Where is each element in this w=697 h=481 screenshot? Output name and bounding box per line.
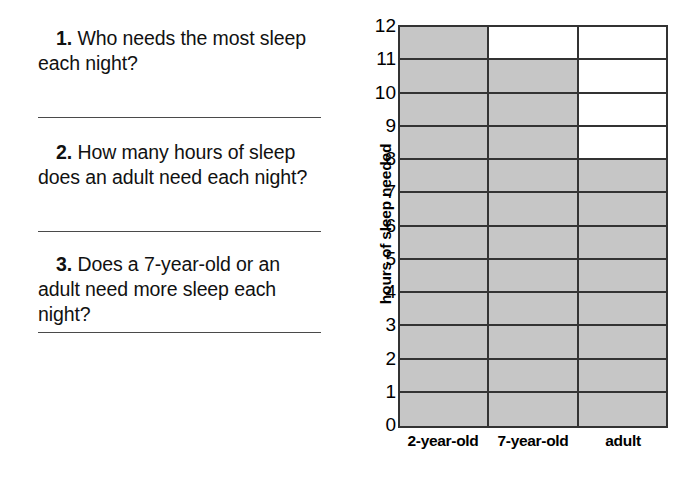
chart-bar-cell [579,127,666,158]
chart-plot-area [398,25,668,428]
chart-bar-cell [579,27,666,58]
question-item: 3. Does a 7-year-old or an adult need mo… [38,252,322,327]
chart-bar-cell [400,193,489,224]
questions-panel: 1. Who needs the most sleep each night? … [0,0,350,481]
question-body: Who needs the most sleep each night? [38,27,306,74]
x-axis-tick-label: adult [578,432,668,450]
y-axis-tick-label: 10 [368,83,396,102]
chart-bar-cell [489,326,578,357]
y-axis-tick-label: 5 [368,249,396,268]
y-axis-tick-label: 11 [368,49,396,68]
chart-grid-row [400,160,666,193]
question-number: 1. [56,27,72,49]
chart-bar-cell [400,160,489,191]
chart-bar-cell [489,60,578,91]
y-axis-tick-label: 1 [368,382,396,401]
chart-grid-row [400,193,666,226]
chart-bar-cell [579,60,666,91]
question-number: 2. [56,141,72,163]
question-text: 3. Does a 7-year-old or an adult need mo… [38,252,322,327]
chart-bar-cell [400,60,489,91]
question-text: 2. How many hours of sleep does an adult… [38,140,322,190]
y-axis-tick-label: 2 [368,349,396,368]
chart-bar-cell [489,293,578,324]
question-body: How many hours of sleep does an adult ne… [38,141,307,188]
chart-bar-cell [400,27,489,58]
chart-bar-cell [489,393,578,426]
chart-grid-row [400,326,666,359]
chart-bar-cell [489,227,578,258]
chart-grid-row [400,127,666,160]
chart-bar-cell [400,293,489,324]
sleep-bar-chart: hours of sleep needed 1211109876543210 2… [352,0,697,481]
y-axis-ticks: 1211109876543210 [368,25,396,428]
question-text: 1. Who needs the most sleep each night? [38,26,322,76]
y-axis-tick-label: 8 [368,149,396,168]
chart-grid-row [400,60,666,93]
question-item: 1. Who needs the most sleep each night? [38,26,322,76]
chart-grid-row [400,94,666,127]
y-axis-tick-label: 6 [368,216,396,235]
question-number: 3. [56,253,72,275]
x-axis-tick-label: 7-year-old [488,432,578,450]
chart-bar-cell [400,393,489,426]
chart-grid-row [400,227,666,260]
chart-bar-cell [579,94,666,125]
chart-bar-cell [489,193,578,224]
chart-grid-row [400,360,666,393]
y-axis-tick-label: 3 [368,315,396,334]
chart-grid-row [400,393,666,426]
answer-line [38,231,321,232]
chart-bar-cell [400,127,489,158]
chart-grid-row [400,27,666,60]
answer-line [38,332,321,333]
chart-bar-cell [400,94,489,125]
chart-bar-cell [579,393,666,426]
x-axis-ticks: 2-year-old7-year-oldadult [398,432,668,450]
y-axis-tick-label: 9 [368,116,396,135]
chart-bar-cell [489,160,578,191]
chart-bar-cell [400,260,489,291]
worksheet-page: 1. Who needs the most sleep each night? … [0,0,697,481]
chart-bar-cell [579,260,666,291]
question-body: Does a 7-year-old or an adult need more … [38,253,280,325]
chart-bar-cell [489,94,578,125]
y-axis-tick-label: 0 [368,415,396,434]
chart-bar-cell [489,260,578,291]
chart-bar-cell [579,160,666,191]
chart-grid-row [400,260,666,293]
answer-line [38,117,321,118]
chart-bar-cell [579,293,666,324]
chart-bar-cell [489,27,578,58]
question-item: 2. How many hours of sleep does an adult… [38,140,322,190]
chart-bar-cell [579,326,666,357]
chart-bar-cell [579,193,666,224]
chart-bar-cell [489,127,578,158]
chart-bar-cell [400,326,489,357]
chart-bar-cell [489,360,578,391]
chart-bar-cell [579,227,666,258]
x-axis-tick-label: 2-year-old [398,432,488,450]
chart-grid-row [400,293,666,326]
chart-bar-cell [400,227,489,258]
y-axis-tick-label: 7 [368,182,396,201]
chart-bar-cell [400,360,489,391]
y-axis-tick-label: 4 [368,282,396,301]
chart-bar-cell [579,360,666,391]
y-axis-tick-label: 12 [368,16,396,35]
